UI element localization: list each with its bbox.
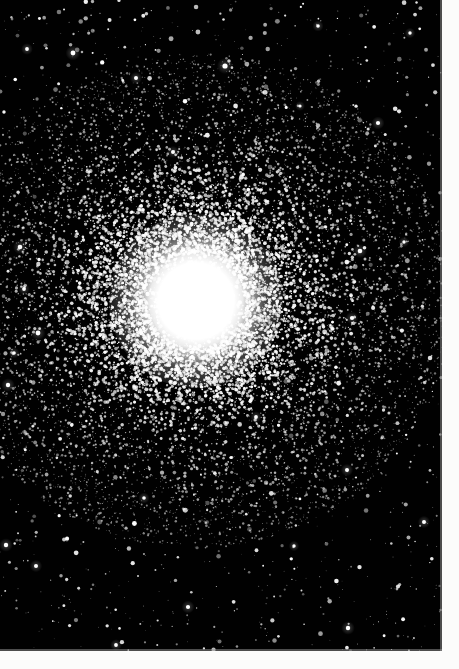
astrophoto-page (0, 0, 459, 669)
plate-caption (0, 651, 442, 669)
star-field-canvas (0, 0, 442, 651)
photographic-plate (0, 0, 442, 651)
print-margin-right (442, 0, 459, 669)
